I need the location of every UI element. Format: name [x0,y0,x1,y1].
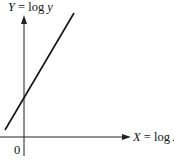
x-axis-label: X = log x [132,130,174,144]
log-log-diagram: Y = log y X = log x 0 [0,0,174,159]
y-axis-arrowhead-icon [21,15,27,24]
origin-label: 0 [14,143,20,157]
data-line [5,13,74,130]
x-axis-arrowhead-icon [122,134,131,140]
y-axis-label: Y = log y [8,0,53,14]
